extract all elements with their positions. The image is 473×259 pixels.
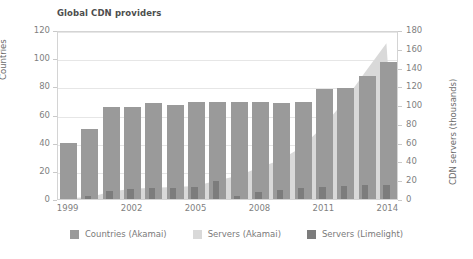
y-tick-label-right: 80 — [406, 119, 436, 129]
bar-slot — [335, 32, 356, 199]
y-tick-mark-right — [398, 125, 402, 126]
bar-slot — [314, 32, 335, 199]
y-tick-label-right: 0 — [406, 194, 436, 204]
y-tick-mark-right — [398, 69, 402, 70]
legend-item[interactable]: Servers (Limelight) — [307, 229, 403, 239]
y-tick-mark-right — [398, 106, 402, 107]
y-tick-label-left: 120 — [14, 25, 50, 35]
chart-title: Global CDN providers — [57, 8, 161, 18]
bar-servers-limelight — [362, 185, 368, 199]
chart-legend: Countries (Akamai)Servers (Akamai)Server… — [0, 229, 473, 239]
bar-slot — [250, 32, 271, 199]
bar-servers-limelight — [127, 189, 133, 199]
bar-servers-limelight — [383, 185, 389, 199]
bar-slot — [207, 32, 228, 199]
y-tick-mark-right — [398, 162, 402, 163]
y-tick-mark-right — [398, 87, 402, 88]
series-servers-limelight — [58, 32, 397, 199]
y-tick-label-right: 60 — [406, 138, 436, 148]
y-tick-label-left: 100 — [14, 53, 50, 63]
plot-area — [57, 31, 398, 200]
bar-slot — [143, 32, 164, 199]
x-tick-label: 2011 — [313, 203, 335, 213]
x-tick-label: 2008 — [249, 203, 271, 213]
bar-slot — [229, 32, 250, 199]
x-tick-label: 2002 — [121, 203, 143, 213]
y-tick-label-right: 40 — [406, 156, 436, 166]
x-tick-label: 2005 — [185, 203, 207, 213]
y-tick-label-left: 40 — [14, 138, 50, 148]
bar-slot — [101, 32, 122, 199]
legend-swatch-icon — [70, 230, 79, 239]
y-tick-label-left: 20 — [14, 166, 50, 176]
y-axis-label-left: Countries — [0, 39, 8, 80]
legend-item[interactable]: Countries (Akamai) — [70, 229, 167, 239]
y-tick-label-right: 20 — [406, 175, 436, 185]
y-tick-label-right: 160 — [406, 44, 436, 54]
chart-container: Global CDN providers Countries CDN serve… — [0, 0, 473, 259]
bar-servers-limelight — [191, 187, 197, 199]
x-tick-label: 2014 — [377, 203, 399, 213]
y-tick-label-left: 60 — [14, 110, 50, 120]
bar-servers-limelight — [319, 187, 325, 199]
y-axis-label-right: CDN servers (thousands) — [448, 79, 458, 185]
y-tick-mark-left — [53, 200, 57, 201]
bar-slot — [165, 32, 186, 199]
bar-servers-limelight — [341, 186, 347, 199]
y-tick-label-right: 180 — [406, 25, 436, 35]
legend-label: Servers (Limelight) — [322, 229, 403, 239]
bar-servers-limelight — [170, 188, 176, 199]
bar-servers-limelight — [298, 188, 304, 199]
y-tick-mark-right — [398, 200, 402, 201]
y-tick-label-left: 80 — [14, 81, 50, 91]
y-tick-label-left: 0 — [14, 194, 50, 204]
bar-slot — [292, 32, 313, 199]
bar-servers-limelight — [85, 196, 91, 199]
y-tick-label-right: 120 — [406, 81, 436, 91]
bar-slot — [79, 32, 100, 199]
bar-slot — [378, 32, 398, 199]
bar-servers-limelight — [213, 181, 219, 199]
bar-slot — [356, 32, 377, 199]
y-tick-mark-right — [398, 144, 402, 145]
x-tick-label: 1999 — [57, 203, 79, 213]
bar-slot — [122, 32, 143, 199]
bar-slot — [271, 32, 292, 199]
bar-servers-limelight — [149, 188, 155, 199]
bar-servers-limelight — [277, 190, 283, 199]
y-tick-mark-right — [398, 50, 402, 51]
bar-servers-limelight — [234, 196, 240, 199]
bar-servers-limelight — [106, 191, 112, 199]
bar-slot — [58, 32, 79, 199]
y-tick-mark-right — [398, 31, 402, 32]
legend-swatch-icon — [193, 230, 202, 239]
y-tick-label-right: 140 — [406, 63, 436, 73]
bar-slot — [186, 32, 207, 199]
legend-swatch-icon — [307, 230, 316, 239]
bar-servers-limelight — [255, 192, 261, 199]
legend-label: Servers (Akamai) — [208, 229, 281, 239]
y-tick-mark-right — [398, 181, 402, 182]
legend-item[interactable]: Servers (Akamai) — [193, 229, 281, 239]
y-tick-label-right: 100 — [406, 100, 436, 110]
legend-label: Countries (Akamai) — [85, 229, 167, 239]
